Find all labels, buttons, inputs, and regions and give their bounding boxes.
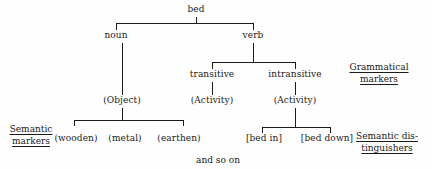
node-activity-intransitive: (Activity) [274, 95, 317, 106]
edge-verb-to-bar [253, 43, 254, 62]
edge-noun-to-object [122, 43, 123, 95]
edge-bar-to-noun [116, 23, 117, 30]
bar-verb-children [212, 62, 295, 63]
label-grammatical-markers-line1: Grammatical [349, 61, 408, 73]
edge-bar-to-transitive [212, 62, 213, 69]
bar-activity-children [262, 127, 330, 128]
footer-and-so-on: and so on [196, 155, 240, 165]
label-semantic-distinguishers-line2: tinguishers [356, 142, 418, 154]
edge-transitive-to-activity [212, 82, 213, 95]
edge-object-to-bar [122, 108, 123, 120]
label-grammatical-markers-line2: markers [349, 73, 408, 85]
label-semantic-distinguishers: Semantic dis- tinguishers [356, 130, 418, 154]
node-transitive: transitive [190, 69, 234, 80]
leaf-metal: (metal) [108, 133, 141, 144]
label-semantic-markers-line2: markers [10, 135, 53, 147]
tree-diagram-canvas: bed noun verb transitive intransitive (O… [0, 0, 432, 169]
node-activity-transitive: (Activity) [191, 95, 234, 106]
node-intransitive: intransitive [268, 69, 321, 80]
node-object: (Object) [103, 95, 141, 106]
edge-bar-to-verb [253, 23, 254, 30]
node-noun: noun [104, 30, 127, 41]
node-bed: bed [187, 4, 204, 15]
leaf-bed-down: [bed down] [301, 133, 353, 144]
label-semantic-distinguishers-line1: Semantic dis- [356, 130, 418, 142]
edge-bar-to-wooden [74, 120, 75, 126]
bar-bed-children [116, 23, 254, 24]
node-verb: verb [243, 30, 264, 41]
leaf-bed-in: [bed in] [246, 133, 282, 144]
bar-object-children [74, 120, 183, 121]
edge-intransitive-to-activity [295, 82, 296, 95]
label-semantic-markers-line1: Semantic [10, 123, 53, 135]
label-semantic-markers: Semantic markers [10, 123, 53, 147]
edge-bar-to-earthen [183, 120, 184, 126]
edge-bar-to-intransitive [295, 62, 296, 69]
edge-activity-to-bar [295, 108, 296, 127]
leaf-wooden: (wooden) [54, 133, 97, 144]
label-grammatical-markers: Grammatical markers [349, 61, 408, 85]
leaf-earthen: (earthen) [157, 133, 200, 144]
